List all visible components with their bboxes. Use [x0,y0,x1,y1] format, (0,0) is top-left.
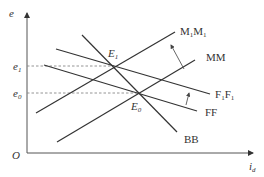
e1-equilibrium-label: E1 [107,47,118,61]
y-axis-label: e [9,7,14,19]
ff-shift-arrow [186,93,189,105]
e1-label: e1 [13,60,21,74]
e0-label: e0 [13,87,22,101]
m1m1-label: M1M1 [180,25,207,39]
mm-label: MM [206,51,226,63]
origin-label: O [12,149,20,161]
bb-curve [82,35,177,132]
bb-label: BB [184,133,199,145]
x-axis-label: id [249,160,256,174]
f1f1-label: F1F1 [215,88,235,102]
m1m1-curve [36,32,175,113]
economic-diagram: e O id e1 e0 E1 E0 M1M1 MM F1F1 FF BB [0,0,264,177]
mm-shift-arrow [171,45,184,69]
ff-label: FF [205,106,217,118]
e0-equilibrium-label: E0 [130,100,142,114]
